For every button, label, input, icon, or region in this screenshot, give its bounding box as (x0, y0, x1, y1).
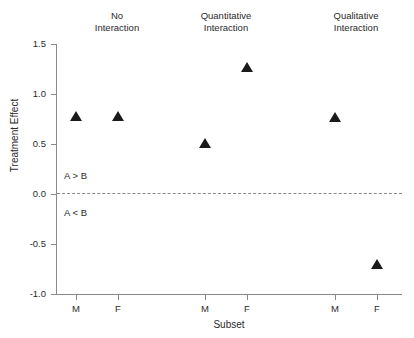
treatment-effect-scatter-chart: No Interaction Quantitative Interaction … (0, 0, 414, 338)
y-tick-mark (51, 244, 56, 245)
x-tick-label-qualitative-m: M (320, 303, 350, 314)
data-point-marker (329, 112, 341, 122)
data-point-marker (199, 138, 211, 148)
annotation-a-less-b: A < B (64, 207, 87, 218)
x-axis-line (56, 294, 402, 295)
data-point-marker (371, 259, 383, 269)
group-header-line2: Interaction (62, 22, 172, 34)
y-tick-mark (51, 94, 56, 95)
x-tick-label-qualitative-f: F (362, 303, 392, 314)
x-tick-label-no-interaction-m: M (61, 303, 91, 314)
group-header-qualitative-interaction: Qualitative Interaction (301, 10, 411, 34)
group-header-line1: Quantitative (171, 10, 281, 22)
y-axis-line (56, 44, 57, 295)
x-tick-label-quantitative-f: F (232, 303, 262, 314)
x-tick-label-quantitative-m: M (190, 303, 220, 314)
x-tick-mark (335, 295, 336, 300)
x-tick-mark (247, 295, 248, 300)
data-point-marker (241, 62, 253, 72)
x-tick-mark (76, 295, 77, 300)
y-tick-label-neg-0-5: -0.5 (6, 239, 46, 249)
y-tick-label-neg-1-0: -1.0 (6, 289, 46, 299)
x-axis-title: Subset (56, 319, 402, 330)
x-tick-mark (205, 295, 206, 300)
y-tick-label-1-5: 1.5 (6, 39, 46, 49)
zero-reference-line (57, 193, 402, 194)
x-tick-mark (118, 295, 119, 300)
group-header-line2: Interaction (171, 22, 281, 34)
group-header-line1: No (62, 10, 172, 22)
y-tick-mark (51, 294, 56, 295)
annotation-a-greater-b: A > B (64, 170, 87, 181)
group-header-line2: Interaction (301, 22, 411, 34)
x-tick-mark (377, 295, 378, 300)
data-point-marker (112, 111, 124, 121)
group-header-no-interaction: No Interaction (62, 10, 172, 34)
x-tick-label-no-interaction-f: F (103, 303, 133, 314)
data-point-marker (70, 111, 82, 121)
y-tick-mark (51, 44, 56, 45)
group-header-quantitative-interaction: Quantitative Interaction (171, 10, 281, 34)
y-axis-title: Treatment Effect (9, 76, 20, 196)
group-header-line1: Qualitative (301, 10, 411, 22)
y-tick-mark (51, 144, 56, 145)
y-tick-mark (51, 194, 56, 195)
